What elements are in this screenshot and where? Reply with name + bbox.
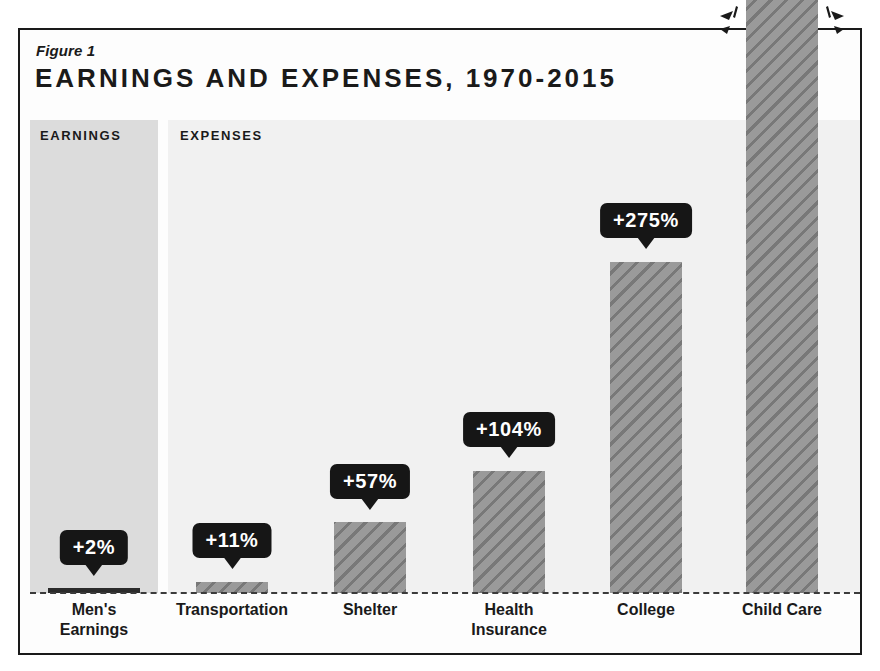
burst-mark-right-icon: [818, 2, 864, 48]
x-axis-label-men-s-earnings: Men's Earnings: [60, 600, 128, 641]
axis-baseline: [30, 592, 860, 594]
x-axis-label-college: College: [617, 600, 675, 620]
bar-child-care: [746, 0, 818, 593]
bar-college: [610, 262, 682, 593]
x-axis-label-transportation: Transportation: [176, 600, 288, 620]
x-axis-label-health-insurance: Health Insurance: [471, 600, 547, 641]
value-callout-health-insurance: +104%: [463, 412, 555, 447]
bar-shelter: [334, 522, 406, 593]
burst-mark-left-icon: [700, 2, 746, 48]
bar-health-insurance: [473, 471, 545, 593]
value-callout-men-s-earnings: +2%: [60, 530, 128, 565]
bars-layer: [0, 0, 880, 593]
value-callout-shelter: +57%: [330, 464, 410, 499]
value-callout-transportation: +11%: [192, 523, 271, 558]
value-callout-college: +275%: [600, 203, 692, 238]
x-axis-label-shelter: Shelter: [343, 600, 397, 620]
x-axis-label-child-care: Child Care: [742, 600, 822, 620]
